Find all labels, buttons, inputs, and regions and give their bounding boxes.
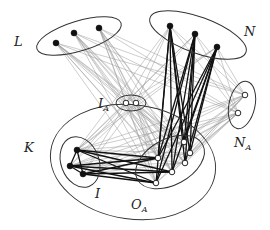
label-K: K (23, 140, 35, 155)
edge-thin (217, 47, 245, 95)
node-IA-1 (123, 100, 129, 106)
node-IA-2 (133, 100, 139, 106)
diagram-canvas: L N IA NA K I OA (0, 0, 270, 230)
node-I-3 (80, 171, 86, 177)
edge-thin (99, 28, 158, 158)
graph-diagram: L N IA NA K I OA (0, 0, 270, 230)
node-NA-1 (242, 92, 248, 98)
node-L-2 (71, 30, 77, 36)
node-OA-3 (169, 169, 175, 175)
edge-thin (77, 26, 170, 150)
node-L-3 (96, 25, 102, 31)
node-L-1 (53, 40, 59, 46)
edge-thin (56, 43, 136, 103)
label-NA: NA (233, 135, 251, 152)
node-OA-5 (182, 160, 188, 166)
edge-thin (74, 33, 136, 103)
node-OA-2 (153, 180, 159, 186)
label-OA: OA (131, 197, 148, 214)
label-IA: IA (97, 96, 109, 113)
label-I: I (94, 186, 101, 201)
node-OA-1 (155, 155, 161, 161)
node-N-3 (214, 44, 220, 50)
label-N: N (243, 24, 256, 39)
node-I-2 (67, 163, 73, 169)
node-NA-2 (235, 110, 241, 116)
node-N-1 (167, 23, 173, 29)
label-L: L (13, 34, 23, 49)
node-OA-4 (181, 139, 187, 145)
node-I-1 (74, 147, 80, 153)
node-OA-6 (187, 150, 193, 156)
node-N-2 (192, 31, 198, 37)
